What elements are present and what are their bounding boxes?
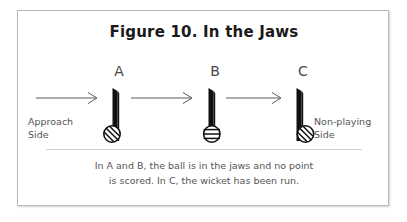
approach-arrow-a-icon <box>36 90 102 106</box>
panel-label-c: C <box>288 63 318 79</box>
approach-side-label-line2: Side <box>28 129 49 140</box>
wicket-and-ball-a <box>98 85 134 151</box>
ball-c <box>297 126 313 142</box>
figure-caption-line2: is scored. In C, the wicket has been run… <box>18 174 390 189</box>
ball-b <box>204 126 220 142</box>
non-playing-side-label-line1: Non-playing <box>314 116 371 127</box>
figure-title: Figure 10. In the Jaws <box>18 23 390 41</box>
panel-label-a: A <box>104 63 134 79</box>
approach-side-label-line1: Approach <box>28 116 73 127</box>
wicket-and-ball-b <box>194 85 230 151</box>
approach-side-label: Approach Side <box>28 115 73 141</box>
figure-root: Figure 10. In the Jaws A B C <box>0 0 407 222</box>
figure-caption-line1: In A and B, the ball is in the jaws and … <box>18 159 390 174</box>
figure-card: Figure 10. In the Jaws A B C <box>17 10 389 206</box>
approach-arrow-c-icon <box>226 90 286 106</box>
non-playing-side-label-line2: Side <box>314 129 335 140</box>
ball-a <box>104 126 120 142</box>
figure-caption: In A and B, the ball is in the jaws and … <box>18 159 390 188</box>
panel-label-b: B <box>200 63 230 79</box>
non-playing-side-label: Non-playing Side <box>314 115 371 141</box>
approach-arrow-b-icon <box>131 90 197 106</box>
